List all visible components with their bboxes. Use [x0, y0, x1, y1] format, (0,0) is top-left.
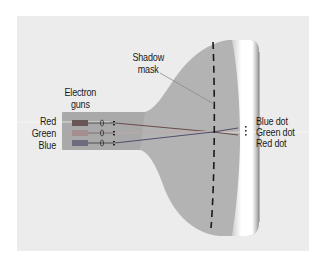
shadow-mask-label-line1: Shadow	[131, 52, 165, 64]
blue-gun-label: Blue	[23, 140, 56, 152]
red-gun-label: Red	[23, 116, 56, 128]
red-dot-label: Red dot	[256, 138, 286, 150]
green-gun	[72, 130, 88, 136]
electron-guns-label-line2: guns	[64, 99, 97, 111]
shadow-mask-label-line2: mask	[131, 64, 165, 76]
phosphor-dots	[245, 126, 247, 136]
blue-gun	[72, 140, 88, 146]
shadow-mask-label: Shadow mask	[131, 52, 165, 75]
electron-guns-label: Electron guns	[64, 87, 97, 110]
red-gun	[72, 120, 88, 126]
green-gun-label: Green	[23, 128, 56, 140]
electron-guns-label-line1: Electron	[64, 87, 97, 99]
